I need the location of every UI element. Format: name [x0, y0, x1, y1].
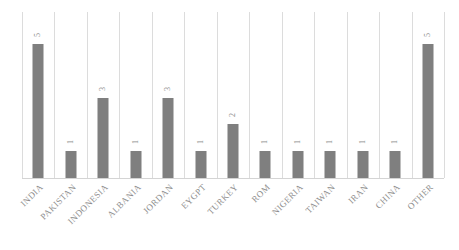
category-tick: TAIWAN	[314, 180, 346, 250]
bar-value-label: 5	[34, 33, 42, 37]
category-label-india: INDIA	[19, 182, 46, 209]
bar-value-label: 1	[326, 140, 334, 144]
bar-slot: 1	[184, 12, 216, 178]
bar-slot: 1	[347, 12, 379, 178]
category-label-rom: ROM	[250, 182, 272, 204]
bar-chart: 5131312111115 INDIAPAKISTANINDONESIAALBA…	[0, 0, 459, 250]
bar-iran[interactable]	[357, 151, 368, 178]
bar-eygpt[interactable]	[195, 151, 206, 178]
bar-value-label: 2	[229, 113, 237, 117]
category-tick: JORDAN	[152, 180, 184, 250]
plot-area: 5131312111115	[22, 12, 444, 178]
category-tick: IRAN	[347, 180, 379, 250]
bar-slot: 3	[87, 12, 119, 178]
bar-slot: 5	[412, 12, 444, 178]
bar-albania[interactable]	[130, 151, 141, 178]
bar-rom[interactable]	[260, 151, 271, 178]
bar-value-label: 1	[261, 140, 269, 144]
bar-slot: 1	[119, 12, 151, 178]
bar-value-label: 1	[67, 140, 75, 144]
category-axis-line	[22, 178, 444, 179]
category-axis-labels: INDIAPAKISTANINDONESIAALBANIAJORDANEYGPT…	[22, 180, 444, 250]
bar-india[interactable]	[33, 44, 44, 178]
bar-other[interactable]	[422, 44, 433, 178]
category-tick: NIGERIA	[282, 180, 314, 250]
category-label-iran: IRAN	[346, 182, 370, 206]
bar-china[interactable]	[390, 151, 401, 178]
category-tick: TURKEY	[217, 180, 249, 250]
bar-slot: 1	[314, 12, 346, 178]
bar-value-label: 1	[197, 140, 205, 144]
bar-indonesia[interactable]	[98, 98, 109, 178]
gridline	[444, 12, 445, 178]
bar-taiwan[interactable]	[325, 151, 336, 178]
bar-value-label: 5	[424, 33, 432, 37]
bar-value-label: 1	[132, 140, 140, 144]
bar-value-label: 1	[359, 140, 367, 144]
bar-slot: 1	[54, 12, 86, 178]
category-tick: OTHER	[412, 180, 444, 250]
bar-slot: 2	[217, 12, 249, 178]
bar-value-label: 3	[164, 87, 172, 91]
bar-slot: 1	[379, 12, 411, 178]
category-tick: CHINA	[379, 180, 411, 250]
bar-pakistan[interactable]	[65, 151, 76, 178]
bar-slot: 5	[22, 12, 54, 178]
bar-slot: 3	[152, 12, 184, 178]
bar-slot: 1	[249, 12, 281, 178]
bar-value-label: 1	[391, 140, 399, 144]
bar-turkey[interactable]	[227, 124, 238, 178]
bar-value-label: 1	[294, 140, 302, 144]
bar-jordan[interactable]	[163, 98, 174, 178]
bar-slot: 1	[282, 12, 314, 178]
bar-nigeria[interactable]	[292, 151, 303, 178]
bar-value-label: 3	[99, 87, 107, 91]
